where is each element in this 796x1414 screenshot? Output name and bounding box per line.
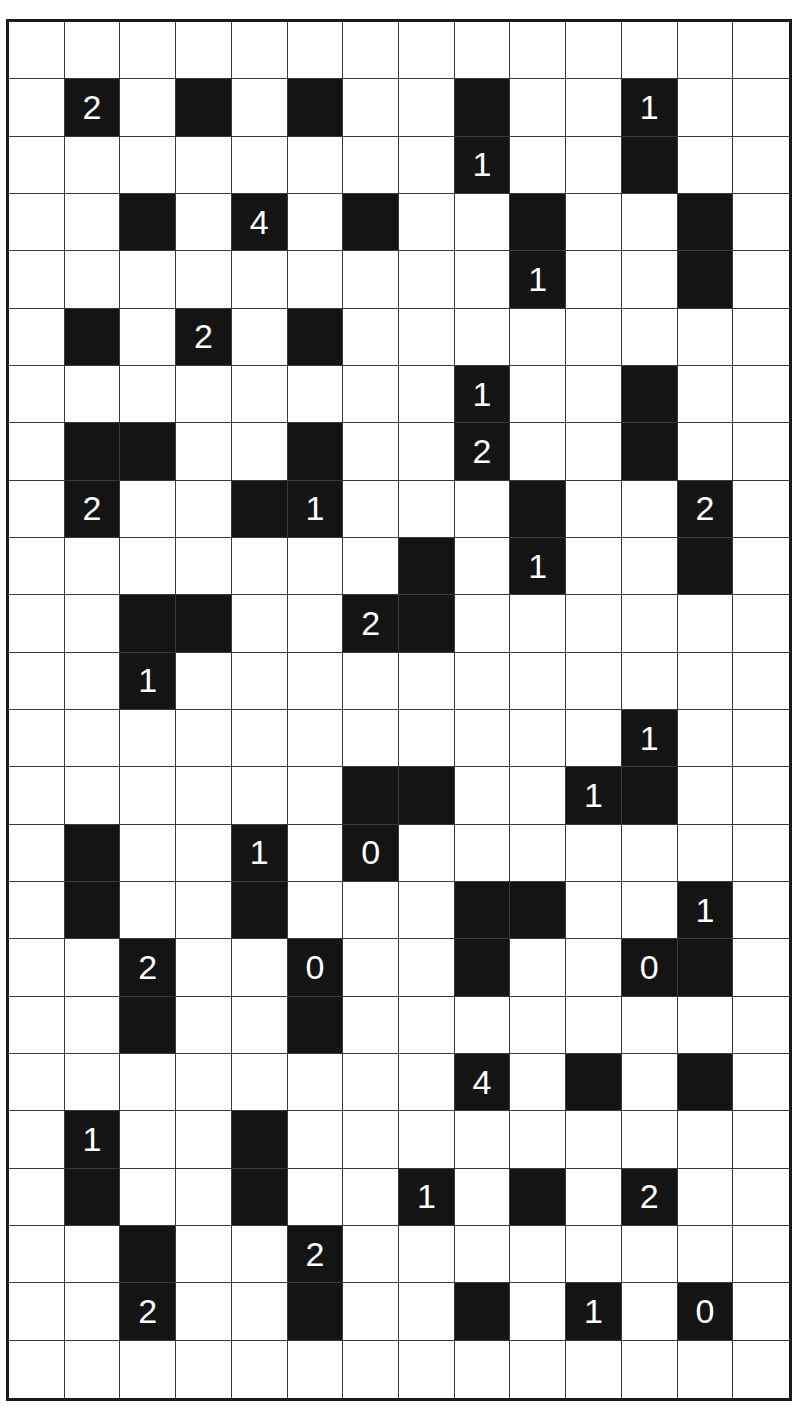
white-cell[interactable] [510, 939, 566, 996]
white-cell[interactable] [678, 366, 734, 423]
white-cell[interactable] [232, 1054, 288, 1111]
white-cell[interactable] [622, 1111, 678, 1168]
white-cell[interactable] [176, 1169, 232, 1226]
white-cell[interactable] [566, 194, 622, 251]
white-cell[interactable] [455, 1226, 511, 1283]
white-cell[interactable] [120, 1169, 176, 1226]
white-cell[interactable] [566, 653, 622, 710]
white-cell[interactable] [733, 1169, 789, 1226]
white-cell[interactable] [288, 538, 344, 595]
white-cell[interactable] [232, 939, 288, 996]
white-cell[interactable] [455, 1169, 511, 1226]
white-cell[interactable] [343, 653, 399, 710]
white-cell[interactable] [9, 882, 65, 939]
white-cell[interactable] [232, 595, 288, 652]
white-cell[interactable] [9, 79, 65, 136]
white-cell[interactable] [120, 366, 176, 423]
white-cell[interactable] [176, 653, 232, 710]
white-cell[interactable] [232, 997, 288, 1054]
white-cell[interactable] [9, 481, 65, 538]
white-cell[interactable] [399, 423, 455, 480]
white-cell[interactable] [176, 366, 232, 423]
white-cell[interactable] [65, 653, 121, 710]
white-cell[interactable] [733, 194, 789, 251]
white-cell[interactable] [120, 79, 176, 136]
white-cell[interactable] [176, 1341, 232, 1398]
white-cell[interactable] [733, 825, 789, 882]
white-cell[interactable] [65, 939, 121, 996]
white-cell[interactable] [566, 1169, 622, 1226]
white-cell[interactable] [510, 1283, 566, 1340]
white-cell[interactable] [288, 194, 344, 251]
white-cell[interactable] [622, 595, 678, 652]
white-cell[interactable] [510, 653, 566, 710]
white-cell[interactable] [399, 251, 455, 308]
white-cell[interactable] [510, 137, 566, 194]
white-cell[interactable] [510, 423, 566, 480]
white-cell[interactable] [343, 366, 399, 423]
white-cell[interactable] [120, 137, 176, 194]
white-cell[interactable] [343, 997, 399, 1054]
white-cell[interactable] [566, 251, 622, 308]
white-cell[interactable] [566, 22, 622, 79]
white-cell[interactable] [678, 825, 734, 882]
white-cell[interactable] [343, 1226, 399, 1283]
white-cell[interactable] [65, 1283, 121, 1340]
white-cell[interactable] [288, 825, 344, 882]
white-cell[interactable] [733, 538, 789, 595]
white-cell[interactable] [176, 1226, 232, 1283]
white-cell[interactable] [399, 79, 455, 136]
white-cell[interactable] [622, 194, 678, 251]
white-cell[interactable] [65, 137, 121, 194]
white-cell[interactable] [9, 137, 65, 194]
white-cell[interactable] [566, 423, 622, 480]
white-cell[interactable] [399, 882, 455, 939]
white-cell[interactable] [455, 767, 511, 824]
white-cell[interactable] [232, 538, 288, 595]
white-cell[interactable] [9, 309, 65, 366]
white-cell[interactable] [399, 22, 455, 79]
white-cell[interactable] [622, 653, 678, 710]
white-cell[interactable] [9, 1226, 65, 1283]
white-cell[interactable] [733, 79, 789, 136]
white-cell[interactable] [120, 825, 176, 882]
white-cell[interactable] [288, 1169, 344, 1226]
white-cell[interactable] [455, 22, 511, 79]
white-cell[interactable] [343, 22, 399, 79]
white-cell[interactable] [399, 939, 455, 996]
white-cell[interactable] [65, 1054, 121, 1111]
white-cell[interactable] [343, 1341, 399, 1398]
white-cell[interactable] [622, 481, 678, 538]
white-cell[interactable] [120, 251, 176, 308]
white-cell[interactable] [232, 1226, 288, 1283]
white-cell[interactable] [232, 767, 288, 824]
white-cell[interactable] [9, 194, 65, 251]
white-cell[interactable] [232, 79, 288, 136]
white-cell[interactable] [120, 481, 176, 538]
white-cell[interactable] [9, 1283, 65, 1340]
white-cell[interactable] [566, 481, 622, 538]
white-cell[interactable] [566, 939, 622, 996]
white-cell[interactable] [733, 939, 789, 996]
white-cell[interactable] [9, 939, 65, 996]
white-cell[interactable] [399, 1226, 455, 1283]
white-cell[interactable] [622, 1283, 678, 1340]
white-cell[interactable] [399, 1054, 455, 1111]
white-cell[interactable] [288, 595, 344, 652]
white-cell[interactable] [176, 882, 232, 939]
white-cell[interactable] [65, 1226, 121, 1283]
white-cell[interactable] [733, 251, 789, 308]
white-cell[interactable] [678, 1169, 734, 1226]
white-cell[interactable] [343, 939, 399, 996]
white-cell[interactable] [566, 538, 622, 595]
white-cell[interactable] [678, 997, 734, 1054]
white-cell[interactable] [733, 1283, 789, 1340]
white-cell[interactable] [566, 825, 622, 882]
white-cell[interactable] [622, 309, 678, 366]
white-cell[interactable] [65, 997, 121, 1054]
white-cell[interactable] [232, 710, 288, 767]
white-cell[interactable] [510, 997, 566, 1054]
white-cell[interactable] [9, 1111, 65, 1168]
white-cell[interactable] [288, 137, 344, 194]
white-cell[interactable] [176, 538, 232, 595]
